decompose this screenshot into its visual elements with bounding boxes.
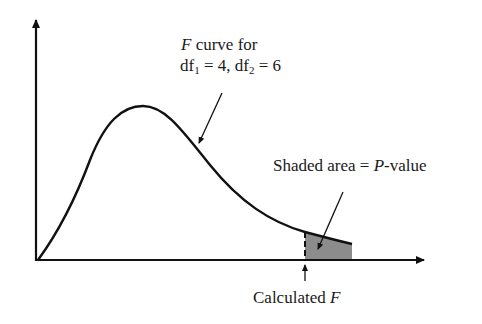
df-label: df1 = 4, df2 = 6 bbox=[180, 57, 281, 76]
calc-label-var: F bbox=[330, 288, 340, 307]
shaded-p-value-area bbox=[305, 232, 352, 260]
df2-value: = 6 bbox=[254, 56, 281, 75]
calculated-f-label: Calculated F bbox=[253, 289, 340, 306]
df2-prefix: df bbox=[235, 56, 249, 75]
calc-label-prefix: Calculated bbox=[253, 288, 330, 307]
shaded-label-suffix: -value bbox=[384, 156, 426, 175]
shaded-label-prefix: Shaded area = bbox=[273, 156, 374, 175]
df1-prefix: df bbox=[180, 56, 194, 75]
curve-label-text: curve for bbox=[191, 35, 257, 54]
df1-value: = 4, bbox=[200, 56, 235, 75]
curve-label-arrow bbox=[199, 93, 222, 143]
curve-label: F curve for bbox=[181, 36, 257, 53]
curve-label-var: F bbox=[181, 35, 191, 54]
shaded-area-label: Shaded area = P-value bbox=[273, 157, 427, 174]
shaded-label-var: P bbox=[374, 156, 384, 175]
